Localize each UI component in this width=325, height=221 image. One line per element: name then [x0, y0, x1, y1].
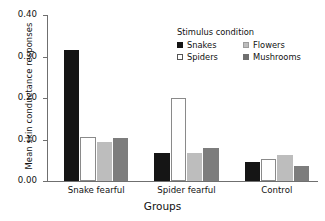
y-tick-label: 0.10 — [11, 134, 37, 144]
legend-item-flowers: Flowers — [243, 40, 301, 50]
legend-items: SnakesFlowersSpidersMushrooms — [177, 40, 301, 62]
legend-item-label: Mushrooms — [253, 52, 301, 62]
y-tick: 0.40 — [43, 15, 48, 16]
y-tick: 0.10 — [43, 140, 48, 141]
bar-mushrooms — [294, 166, 310, 181]
bar-snakes — [154, 153, 170, 181]
legend-item-label: Spiders — [187, 52, 218, 62]
bar-snakes — [245, 162, 261, 181]
y-tick: 0.00 — [43, 181, 48, 182]
bar-mushrooms — [203, 148, 219, 181]
legend-item-mushrooms: Mushrooms — [243, 52, 301, 62]
bar-flowers — [97, 142, 113, 181]
x-axis-title: Groups — [0, 200, 325, 212]
bar-spiders — [171, 98, 187, 181]
bar-mushrooms — [113, 138, 129, 181]
y-tick: 0.20 — [43, 98, 48, 99]
y-tick-label: 0.30 — [11, 51, 37, 61]
legend-item-snakes: Snakes — [177, 40, 243, 50]
bar-snakes — [64, 50, 80, 181]
bar-spiders — [80, 137, 96, 181]
legend-item-label: Snakes — [187, 40, 217, 50]
bar-flowers — [277, 155, 293, 181]
legend-item-spiders: Spiders — [177, 52, 243, 62]
bar-spiders — [261, 159, 277, 181]
group-label: Control — [261, 185, 292, 195]
spiders-swatch-icon — [177, 54, 183, 60]
mushrooms-swatch-icon — [243, 54, 249, 60]
group-label: Spider fearful — [157, 185, 215, 195]
x-axis-line — [47, 181, 318, 182]
snakes-swatch-icon — [177, 42, 183, 48]
legend-item-label: Flowers — [253, 40, 285, 50]
bar-flowers — [187, 153, 203, 181]
group-label: Snake fearful — [68, 185, 125, 195]
y-tick-label: 0.00 — [11, 175, 37, 185]
y-tick-label: 0.20 — [11, 92, 37, 102]
legend-title: Stimulus condition — [177, 27, 301, 37]
legend: Stimulus condition SnakesFlowersSpidersM… — [177, 27, 301, 62]
y-tick-label: 0.40 — [11, 9, 37, 19]
flowers-swatch-icon — [243, 42, 249, 48]
y-tick: 0.30 — [43, 57, 48, 58]
bar-chart: Mean skin conductance responses 0.000.10… — [0, 0, 325, 221]
